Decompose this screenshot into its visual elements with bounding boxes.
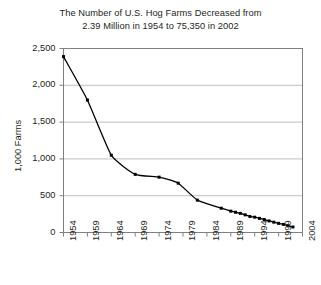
data-point-marker xyxy=(196,199,199,202)
hog-farms-line-chart: The Number of U.S. Hog Farms Decreased f… xyxy=(0,0,321,285)
x-tick-label: 1974 xyxy=(163,220,173,241)
data-point-marker xyxy=(244,213,247,216)
data-point-marker xyxy=(62,55,65,58)
x-tick-label: 1999 xyxy=(283,220,293,241)
plot-border xyxy=(64,49,303,233)
x-tick-label: 1994 xyxy=(259,220,269,241)
data-line xyxy=(64,57,293,227)
y-tick-label: 500 xyxy=(16,190,56,200)
data-point-marker xyxy=(234,211,237,214)
x-tick-label: 1964 xyxy=(115,220,125,241)
x-tick-label: 1979 xyxy=(187,220,197,241)
y-tick-label: 1,500 xyxy=(16,116,56,126)
data-point-marker xyxy=(134,173,137,176)
data-point-marker xyxy=(239,212,242,215)
y-tick-label: 2,000 xyxy=(16,79,56,89)
data-point-marker xyxy=(253,216,256,219)
data-point-marker xyxy=(110,154,113,157)
data-point-marker xyxy=(229,210,232,213)
data-point-marker xyxy=(272,221,275,224)
data-point-marker xyxy=(220,207,223,210)
y-tick-label: 0 xyxy=(16,227,56,237)
x-tick-label: 1989 xyxy=(235,220,245,241)
data-point-marker xyxy=(158,176,161,179)
x-tick-label: 1969 xyxy=(139,220,149,241)
data-point-marker xyxy=(277,222,280,225)
data-point-marker xyxy=(177,182,180,185)
x-tick-label: 1984 xyxy=(211,220,221,241)
gridlines xyxy=(64,49,303,196)
x-tick-label: 1954 xyxy=(68,220,78,241)
x-tick-label: 2004 xyxy=(307,220,317,241)
plot-frame xyxy=(64,49,303,233)
data-point-marker xyxy=(86,99,89,102)
x-tick-label: 1959 xyxy=(91,220,101,241)
data-point-marker xyxy=(248,215,251,218)
y-tick-label: 2,500 xyxy=(16,43,56,53)
y-axis-ticks xyxy=(60,49,64,233)
data-point-markers xyxy=(62,55,294,228)
y-tick-label: 1,000 xyxy=(16,153,56,163)
